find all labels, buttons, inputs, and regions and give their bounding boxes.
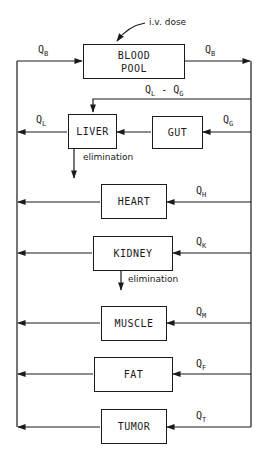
gut-inflow-label: QG xyxy=(223,114,233,128)
muscle-inflow-label: QM xyxy=(196,306,206,320)
fat-inflow-label: QF xyxy=(196,358,206,372)
liver-outflow-label: QL xyxy=(36,114,46,128)
muscle-compartment: MUSCLE xyxy=(101,306,167,341)
tumor-inflow-label: QT xyxy=(196,410,206,424)
blood-outflow-label: QB xyxy=(205,44,215,58)
kidney-inflow-label: QK xyxy=(196,236,206,250)
liver-compartment: LIVER xyxy=(68,114,117,149)
heart-inflow-label: QH xyxy=(196,185,206,199)
gut-compartment: GUT xyxy=(152,116,203,149)
blood-inflow-label: QB xyxy=(38,44,48,58)
iv-dose-label: i.v. dose xyxy=(149,17,186,27)
tumor-compartment: TUMOR xyxy=(101,409,167,444)
heart-compartment: HEART xyxy=(101,184,167,219)
blood-pool-line1: BLOOD xyxy=(118,49,151,62)
liver-elimination-label: elimination xyxy=(83,152,133,162)
hepatic-arterial-flow-label: QL - QG xyxy=(145,84,184,98)
fat-compartment: FAT xyxy=(94,357,173,392)
blood-pool-compartment: BLOOD POOL xyxy=(83,44,185,79)
blood-pool-line2: POOL xyxy=(121,62,147,75)
kidney-elimination-label: elimination xyxy=(128,274,178,284)
kidney-compartment: KIDNEY xyxy=(93,236,173,271)
